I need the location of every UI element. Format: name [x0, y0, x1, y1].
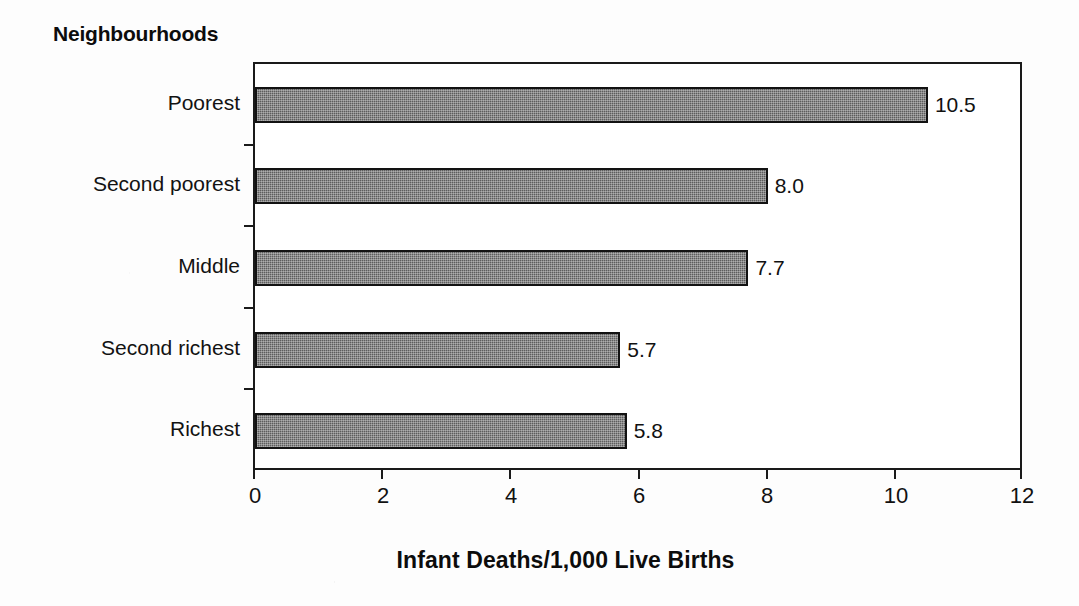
x-axis-tick-mark — [766, 470, 768, 479]
bar-middle[interactable]: 7.7 — [255, 250, 748, 286]
bar-poorest[interactable]: 10.5 — [255, 87, 928, 123]
y-axis-label-row: Middle — [0, 225, 240, 307]
y-axis-label-row: Second poorest — [0, 144, 240, 226]
chart-canvas: Neighbourhoods Poorest Second poorest Mi… — [0, 0, 1079, 606]
x-axis-tick-mark — [894, 470, 896, 479]
y-axis-tick-label-second-poorest: Second poorest — [0, 172, 240, 196]
x-axis-tick-label-4: 4 — [505, 483, 517, 509]
x-axis-tick-label-0: 0 — [249, 483, 261, 509]
y-axis-label-row: Poorest — [0, 62, 240, 144]
x-axis-tick-label-2: 2 — [377, 483, 389, 509]
bar-second-poorest[interactable]: 8.0 — [255, 168, 768, 204]
x-axis-tick-label-12: 12 — [1010, 483, 1034, 509]
plot-area: 10.5 8.0 7.7 5.7 5.8 — [253, 62, 1022, 470]
x-axis-tick-label-6: 6 — [633, 483, 645, 509]
y-axis-tick-label-second-richest: Second richest — [0, 336, 240, 360]
y-axis-tick-label-poorest: Poorest — [0, 91, 240, 115]
bar-band: 10.5 — [255, 64, 1020, 146]
bar-richest[interactable]: 5.8 — [255, 413, 627, 449]
bar-second-richest[interactable]: 5.7 — [255, 332, 620, 368]
y-axis-label-row: Second richest — [0, 307, 240, 389]
bar-value-label-second-poorest: 8.0 — [775, 174, 804, 198]
bar-value-label-richest: 5.8 — [634, 419, 663, 443]
x-axis-tick-mark — [253, 470, 255, 479]
y-axis-category-labels: Poorest Second poorest Middle Second ric… — [0, 62, 240, 470]
bar-band: 7.7 — [255, 227, 1020, 309]
bar-value-label-middle: 7.7 — [755, 256, 784, 280]
bar-value-label-poorest: 10.5 — [935, 93, 976, 117]
bar-band: 5.7 — [255, 309, 1020, 391]
y-axis-tick-label-middle: Middle — [0, 254, 240, 278]
y-axis-label-row: Richest — [0, 388, 240, 470]
x-axis-tick-label-10: 10 — [884, 483, 908, 509]
x-axis-title: Infant Deaths/1,000 Live Births — [0, 547, 1079, 574]
bar-band: 8.0 — [255, 146, 1020, 228]
bar-band: 5.8 — [255, 390, 1020, 472]
x-axis-tick-mark — [1020, 470, 1022, 479]
chart-title: Neighbourhoods — [53, 22, 218, 46]
x-axis-tick-mark — [509, 470, 511, 479]
x-axis-tick-mark — [381, 470, 383, 479]
x-axis-tick-label-8: 8 — [761, 483, 773, 509]
bar-value-label-second-richest: 5.7 — [627, 338, 656, 362]
y-axis-tick-label-richest: Richest — [0, 417, 240, 441]
x-axis-tick-mark — [638, 470, 640, 479]
